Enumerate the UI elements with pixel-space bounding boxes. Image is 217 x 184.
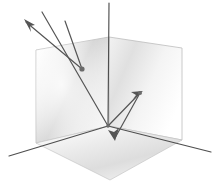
corner-origin-vertex	[106, 124, 110, 128]
ray-diagram-figure	[0, 0, 217, 184]
right-plane-reflection-vertex	[138, 91, 142, 95]
left-vertical-plane-sheen	[36, 37, 109, 143]
left-plane-reflection-vertex	[79, 66, 84, 71]
upper-left-exit-arrowhead	[24, 19, 35, 32]
scene-canvas	[0, 0, 217, 184]
right-vertical-plane	[109, 37, 182, 140]
